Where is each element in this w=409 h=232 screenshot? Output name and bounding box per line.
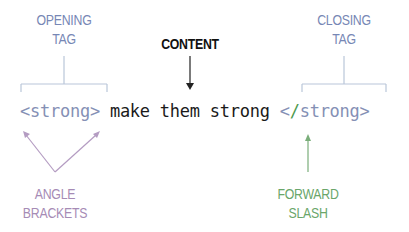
closing-tag-lt: < xyxy=(280,101,290,121)
forward-slash-arrow-icon xyxy=(305,134,311,172)
closing-tag-slash: / xyxy=(290,101,300,121)
closing-tag-label: CLOSING TAG xyxy=(303,10,385,48)
closing-tag-rest: strong> xyxy=(300,101,370,121)
forward-slash-label: FORWARD SLASH xyxy=(267,184,349,222)
content-arrow-icon xyxy=(186,56,194,90)
opening-tag-label: OPENING TAG xyxy=(23,10,105,48)
closing-tag-bracket xyxy=(302,56,386,92)
space xyxy=(270,101,280,121)
content-label: CONTENT xyxy=(149,34,231,53)
opening-tag-bracket xyxy=(21,56,107,92)
angle-brackets-arrows-icon xyxy=(23,131,100,172)
content-text: make them strong xyxy=(110,101,270,121)
angle-brackets-label: ANGLE BRACKETS xyxy=(14,184,96,222)
opening-tag: <strong> xyxy=(20,101,100,121)
html-code-example: <strong> make them strong </strong> xyxy=(20,101,370,121)
space xyxy=(100,101,110,121)
